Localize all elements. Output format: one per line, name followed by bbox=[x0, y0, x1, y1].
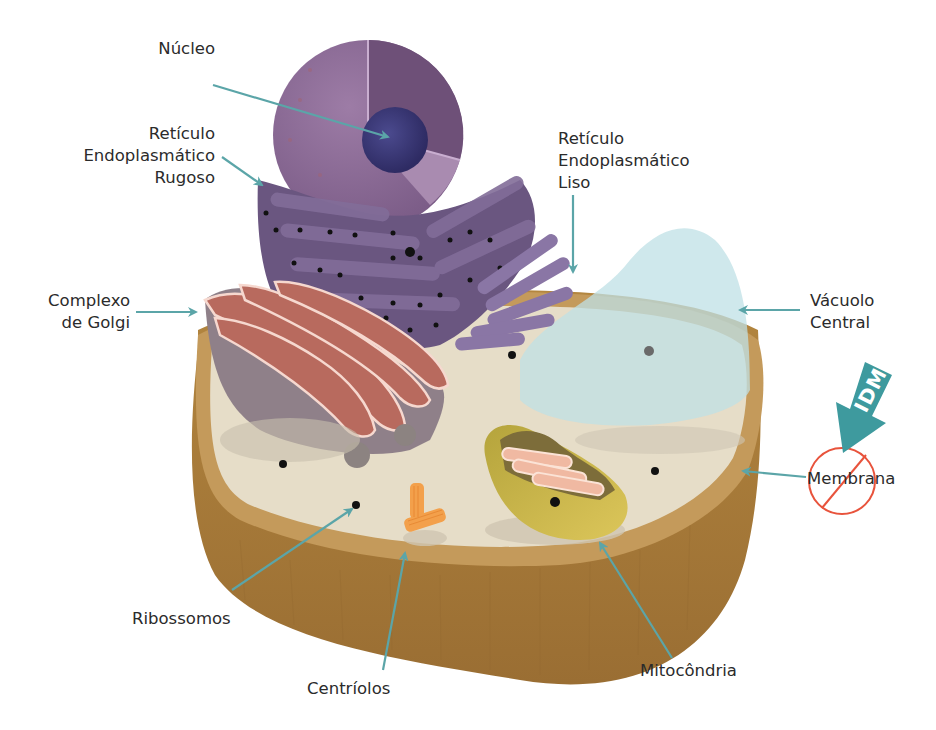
label-text: Retículo bbox=[558, 128, 718, 150]
label-nucleo: Núcleo bbox=[135, 38, 215, 60]
label-centriolos: Centríolos bbox=[307, 678, 417, 700]
label-membrana: Membrana bbox=[807, 468, 907, 490]
label-text: Endoplasmático bbox=[558, 150, 718, 172]
label-text: Retículo bbox=[75, 123, 215, 145]
label-text: Complexo bbox=[25, 290, 130, 312]
label-complexo-golgi: Complexo de Golgi bbox=[25, 290, 130, 334]
label-text: Endoplasmático bbox=[75, 145, 215, 167]
label-text: Central bbox=[810, 312, 900, 334]
label-reticulo-liso: Retículo Endoplasmático Liso bbox=[558, 128, 718, 194]
label-text: Centríolos bbox=[307, 678, 417, 700]
label-mitocondria: Mitocôndria bbox=[640, 660, 760, 682]
label-text: de Golgi bbox=[25, 312, 130, 334]
label-text: Membrana bbox=[807, 468, 907, 490]
label-reticulo-rugoso: Retículo Endoplasmático Rugoso bbox=[75, 123, 215, 189]
label-text: Vácuolo bbox=[810, 290, 900, 312]
label-ribossomos: Ribossomos bbox=[132, 608, 252, 630]
label-text: Mitocôndria bbox=[640, 660, 760, 682]
label-vacuolo-central: Vácuolo Central bbox=[810, 290, 900, 334]
label-text: Rugoso bbox=[75, 167, 215, 189]
label-text: Liso bbox=[558, 172, 718, 194]
cell-diagram: Núcleo Retículo Endoplasmático Rugoso Re… bbox=[0, 0, 936, 730]
label-text: Núcleo bbox=[135, 38, 215, 60]
arrow-rer bbox=[222, 157, 262, 185]
label-text: Ribossomos bbox=[132, 608, 252, 630]
